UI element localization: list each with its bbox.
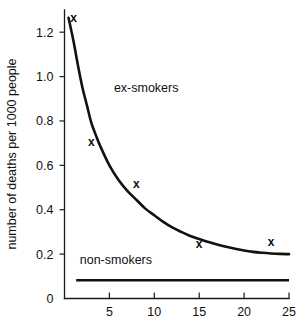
y-tick-label: 0.8 — [36, 114, 53, 128]
y-axis-title: number of deaths per 1000 people — [5, 58, 19, 249]
data-point-marker: x — [196, 237, 203, 251]
chart-series — [69, 18, 289, 281]
x-tick-label: 10 — [147, 305, 161, 319]
x-tick-label: 25 — [282, 305, 296, 319]
series-curve-ex-smokers — [69, 18, 289, 254]
y-tick-label: 0.6 — [36, 159, 53, 173]
y-tick-label: 0.4 — [36, 203, 53, 217]
chart-container: 00.20.40.60.81.01.2 510152025 xxxxx ex-s… — [0, 0, 306, 329]
y-tick-label: 1.2 — [36, 26, 53, 40]
series-label-non-smokers: non-smokers — [80, 253, 152, 267]
x-axis-ticks: 510152025 — [106, 293, 296, 319]
data-point-marker: x — [133, 177, 140, 191]
data-point-marker: x — [88, 135, 95, 149]
series-annotations: ex-smokersnon-smokers — [80, 81, 179, 267]
series-label-ex-smokers: ex-smokers — [114, 81, 179, 95]
mortality-line-chart: 00.20.40.60.81.01.2 510152025 xxxxx ex-s… — [0, 0, 306, 329]
x-tick-label: 20 — [237, 305, 251, 319]
y-tick-label: 1.0 — [36, 70, 53, 84]
data-point-marker: x — [268, 235, 275, 249]
data-point-markers: xxxxx — [70, 11, 275, 251]
data-point-marker: x — [70, 11, 77, 25]
x-tick-label: 15 — [192, 305, 206, 319]
x-tick-label: 5 — [106, 305, 113, 319]
y-tick-label: 0 — [47, 292, 54, 306]
y-tick-label: 0.2 — [36, 248, 53, 262]
y-axis-ticks: 00.20.40.60.81.01.2 — [36, 26, 64, 306]
